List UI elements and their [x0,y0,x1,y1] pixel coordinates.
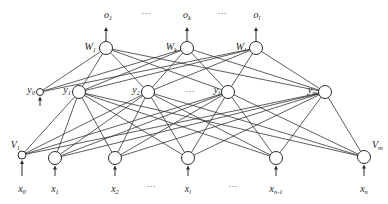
output-label-1: ok [183,9,191,21]
input-node-4 [270,152,283,165]
output-node-2 [250,42,263,55]
output-node-1 [181,42,194,55]
input-label-1: x1 [50,183,59,195]
hidden-node-1 [142,86,155,99]
input-node-label-5: Vm [372,139,383,151]
edge-hidden-2-input-4 [228,92,276,158]
edge-hidden-2-input-5 [228,92,364,157]
input-label-0: x0 [17,183,26,195]
hidden-node-0 [73,86,86,99]
hidden-node-label-1: y2 [131,84,140,96]
input-node-5 [358,151,371,164]
input-arrow-3-head [186,166,190,170]
input-arrow-4-head [274,166,278,170]
edge-hidden-3-input-2 [115,92,325,158]
edge-hidden-0-input-1 [55,92,79,158]
edge-hidden-2-input-1 [55,92,228,158]
hidden-node-3 [319,86,332,99]
output-arrow-1-head [185,27,189,31]
input-node-label-0: V1 [11,139,20,151]
hidden-bias-node [37,89,44,96]
input-node-0 [18,151,26,159]
hidden-bias-label: y0 [26,84,35,96]
hidden-node-2 [222,86,235,99]
output-node-0 [100,42,113,55]
input-node-1 [49,152,62,165]
input-arrow-5-head [362,165,366,169]
neural-network-diagram: o1okol······W1WkWly0y1y2yjym···V1x0x1x2x… [0,0,388,204]
edges [22,48,364,158]
hidden-bias-arrow-head [38,97,42,101]
edge-hidden-1-input-0 [22,92,148,155]
input-ellipsis-2: ··· [229,181,238,191]
edge-output-2-hidden-2 [228,48,256,92]
output-label-2: ol [254,9,261,21]
output-arrow-0-head [104,27,108,31]
edge-hidden-0-input-4 [79,92,276,158]
edge-hidden-0-input-0 [22,92,79,155]
output-ellipsis-1: ··· [142,8,151,18]
output-node-label-2: Wl [236,41,246,53]
output-node-label-0: W1 [84,41,96,53]
input-ellipsis-1: ··· [147,181,156,191]
edge-hidden-1-input-5 [148,92,364,157]
input-arrow-2-head [113,166,117,170]
input-node-2 [109,152,122,165]
edge-output-0-hidden-0 [79,48,106,92]
input-label-4: xn-1 [268,183,282,195]
input-label-2: x2 [110,183,119,195]
input-label-3: xi [184,183,191,195]
hidden-ellipsis: ··· [186,86,195,96]
output-arrow-2-head [254,27,258,31]
output-label-0: o1 [104,9,112,21]
input-arrow-0-head [20,160,24,164]
input-label-5: xn [359,183,368,195]
input-arrow-1-head [53,166,57,170]
input-node-3 [182,152,195,165]
hidden-node-label-2: yj [213,84,220,96]
output-ellipsis-2: ··· [218,8,227,18]
output-node-label-1: Wk [166,41,177,53]
